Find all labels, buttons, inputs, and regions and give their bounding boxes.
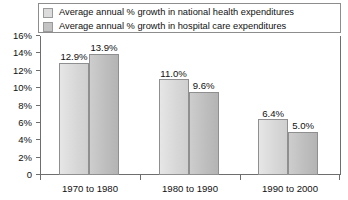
legend-swatch-series-1-icon — [43, 8, 53, 18]
bar-value-series-1-1990-to-2000: 6.4% — [244, 108, 302, 119]
legend-swatch-series-2-icon — [43, 22, 53, 32]
bar-group-1970-to-1980: 12.9% 13.9% — [41, 36, 141, 175]
y-tick-0: 0 — [27, 169, 40, 180]
bars-layer: 12.9% 13.9% 11.0% 9.6% 6.4% 5.0% — [41, 36, 340, 175]
bar-series-2-1990-to-2000 — [288, 132, 318, 175]
legend-item-series-1: Average annual % growth in national heal… — [43, 6, 340, 19]
y-tick-label-12: 12% — [13, 65, 36, 76]
y-tick-mark — [36, 35, 40, 36]
y-tick-label-2: 2% — [18, 152, 36, 163]
y-tick-label-8: 8% — [18, 100, 36, 111]
y-tick-label-0: 0 — [27, 169, 36, 180]
y-tick-label-16: 16% — [13, 30, 36, 41]
x-axis: 1970 to 1980 1980 to 1990 1990 to 2000 — [40, 175, 341, 200]
legend-label-series-1: Average annual % growth in national heal… — [59, 7, 294, 18]
y-tick-label-14: 14% — [13, 47, 36, 58]
y-tick-10: 10% — [13, 82, 40, 93]
bar-group-1990-to-2000: 6.4% 5.0% — [240, 36, 340, 175]
x-label-1980-to-1990: 1980 to 1990 — [140, 183, 240, 194]
y-axis: 16% 14% 12% 10% 8% 6% 4% 2% — [0, 36, 40, 176]
y-tick-mark — [36, 157, 40, 158]
x-label-1990-to-2000: 1990 to 2000 — [240, 183, 340, 194]
legend-label-series-2: Average annual % growth in hospital care… — [59, 21, 286, 32]
y-tick-6: 6% — [18, 117, 40, 128]
bar-series-2-1970-to-1980 — [89, 54, 119, 175]
y-tick-mark — [36, 52, 40, 53]
y-tick-16: 16% — [13, 30, 40, 41]
y-tick-14: 14% — [13, 47, 40, 58]
y-tick-label-6: 6% — [18, 117, 36, 128]
y-tick-8: 8% — [18, 100, 40, 111]
y-tick-mark — [36, 87, 40, 88]
x-tick-mark — [140, 175, 141, 180]
y-tick-2: 2% — [18, 152, 40, 163]
bar-value-series-2-1990-to-2000: 5.0% — [274, 120, 332, 131]
y-tick-mark — [36, 122, 40, 123]
chart-legend: Average annual % growth in national heal… — [38, 3, 341, 33]
bar-value-series-1-1980-to-1990: 11.0% — [145, 68, 203, 79]
y-tick-label-4: 4% — [18, 134, 36, 145]
x-tick-mark — [240, 175, 241, 180]
y-tick-4: 4% — [18, 134, 40, 145]
x-tick-mark — [40, 175, 41, 180]
x-label-1970-to-1980: 1970 to 1980 — [40, 183, 140, 194]
y-tick-mark — [36, 139, 40, 140]
y-tick-12: 12% — [13, 65, 40, 76]
x-tick-mark — [339, 175, 340, 180]
bar-value-series-2-1970-to-1980: 13.9% — [75, 42, 133, 53]
bar-group-1980-to-1990: 11.0% 9.6% — [141, 36, 241, 175]
bar-series-2-1980-to-1990 — [189, 92, 219, 175]
y-tick-label-10: 10% — [13, 82, 36, 93]
y-tick-mark — [36, 105, 40, 106]
legend-item-series-2: Average annual % growth in hospital care… — [43, 20, 340, 33]
bar-series-1-1970-to-1980 — [59, 63, 89, 175]
bar-chart: Average annual % growth in national heal… — [0, 0, 348, 200]
bar-value-series-2-1980-to-1990: 9.6% — [175, 80, 233, 91]
bar-series-1-1980-to-1990 — [159, 79, 189, 175]
y-tick-mark — [36, 70, 40, 71]
